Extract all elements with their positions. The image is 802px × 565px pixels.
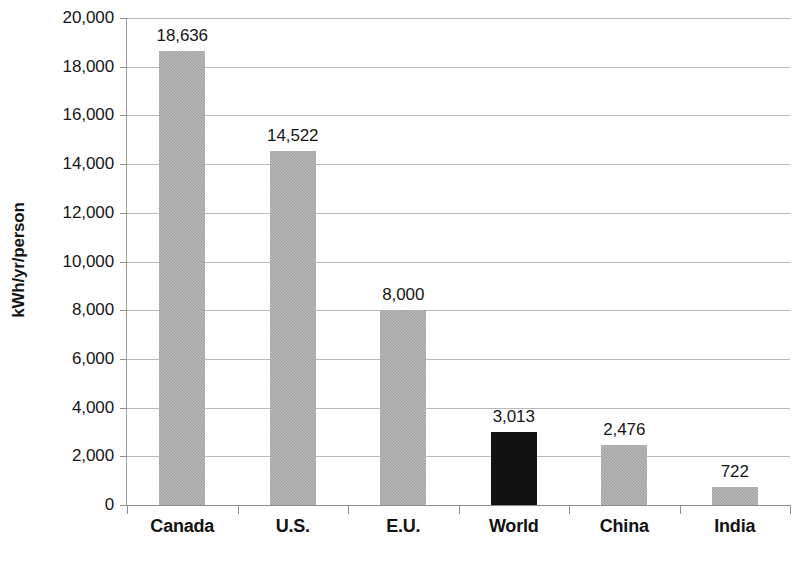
bar-world[interactable] <box>491 432 537 505</box>
y-axis-tick-label: 6,000 <box>72 349 114 369</box>
y-axis-tick <box>120 164 127 165</box>
y-axis-tick <box>120 310 127 311</box>
y-axis-tick-label: 20,000 <box>63 8 114 28</box>
gridline <box>127 310 790 311</box>
bar-e-u[interactable] <box>380 310 426 505</box>
y-axis-tick <box>120 262 127 263</box>
gridline <box>127 456 790 457</box>
y-axis-tick-label: 0 <box>105 495 114 515</box>
bar-value-label: 722 <box>675 462 795 482</box>
x-axis-tick <box>238 505 239 514</box>
y-axis-tick <box>120 67 127 68</box>
bar-canada[interactable] <box>159 51 205 505</box>
x-axis-label-india: India <box>675 516 795 537</box>
y-axis-tick <box>120 18 127 19</box>
x-axis-tick <box>348 505 349 514</box>
bar-value-label: 3,013 <box>454 407 574 427</box>
x-axis-label-canada: Canada <box>122 516 242 537</box>
gridline <box>127 115 790 116</box>
bar-chart: kWh/yr/person 20,00018,00016,00014,00012… <box>0 0 802 565</box>
gridline <box>127 359 790 360</box>
y-axis-tick-label: 16,000 <box>63 105 114 125</box>
y-axis-tick-label: 4,000 <box>72 398 114 418</box>
y-axis-title: kWh/yr/person <box>2 0 36 520</box>
y-axis-tick <box>120 456 127 457</box>
y-axis-tick-label: 12,000 <box>63 203 114 223</box>
y-axis-tick <box>120 359 127 360</box>
x-axis-label-u-s: U.S. <box>233 516 353 537</box>
x-axis-tick <box>459 505 460 514</box>
y-axis-tick-label: 10,000 <box>63 252 114 272</box>
y-axis-tick-label: 8,000 <box>72 300 114 320</box>
bar-china[interactable] <box>601 445 647 505</box>
gridline <box>127 164 790 165</box>
gridline <box>127 67 790 68</box>
y-axis-tick <box>120 408 127 409</box>
x-axis-category-labels: CanadaU.S.E.U.WorldChinaIndia <box>127 516 790 554</box>
bar-value-label: 2,476 <box>564 420 684 440</box>
bar-u-s[interactable] <box>270 151 316 505</box>
plot-area: 18,63614,5228,0003,0132,476722 <box>127 18 790 505</box>
x-axis-label-china: China <box>564 516 684 537</box>
y-axis-tick <box>120 213 127 214</box>
gridline <box>127 18 790 19</box>
y-axis-tick <box>120 505 127 506</box>
x-axis-label-e-u: E.U. <box>343 516 463 537</box>
bar-value-label: 18,636 <box>122 26 242 46</box>
x-axis-tick <box>680 505 681 514</box>
x-axis-tick <box>790 505 791 514</box>
gridline <box>127 213 790 214</box>
y-axis-title-text: kWh/yr/person <box>9 202 29 317</box>
y-axis-tick <box>120 115 127 116</box>
y-axis-tick-labels: 20,00018,00016,00014,00012,00010,0008,00… <box>34 18 120 505</box>
gridline <box>127 262 790 263</box>
bar-india[interactable] <box>712 487 758 505</box>
y-axis-tick-label: 18,000 <box>63 57 114 77</box>
y-axis-tick-label: 2,000 <box>72 446 114 466</box>
x-axis-tick <box>127 505 128 514</box>
y-axis-tick-label: 14,000 <box>63 154 114 174</box>
bar-value-label: 14,522 <box>233 126 353 146</box>
x-axis-tick <box>569 505 570 514</box>
x-axis-label-world: World <box>454 516 574 537</box>
bar-value-label: 8,000 <box>343 285 463 305</box>
